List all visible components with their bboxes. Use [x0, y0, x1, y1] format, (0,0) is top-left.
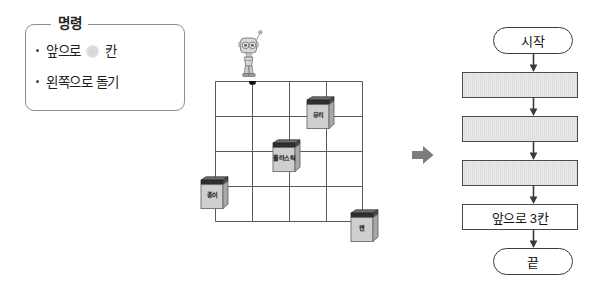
- flow-node-end[interactable]: 끝: [493, 248, 573, 275]
- flow-node-end-label: 끝: [527, 252, 539, 271]
- flow-arrow-4: [529, 186, 538, 204]
- flow-node-step3[interactable]: [462, 160, 578, 186]
- bullet-icon: [36, 49, 39, 52]
- bin-can-label: 캔: [349, 224, 375, 231]
- robot: [238, 29, 264, 81]
- flow-node-step1[interactable]: [462, 72, 578, 98]
- arrow-right-icon: [411, 144, 435, 166]
- bullet-icon: [36, 80, 39, 83]
- bin-plastic: 플라스틱: [271, 139, 301, 173]
- bin-paper: 종이: [199, 176, 229, 210]
- screenshot-root: 명령 앞으로 칸 왼쪽으로 돌기: [0, 0, 609, 303]
- bin-paper-label: 종이: [199, 191, 225, 198]
- command-item-forward[interactable]: 앞으로 칸: [46, 36, 184, 67]
- flow-arrow-1: [529, 54, 538, 72]
- flow-node-forward-3[interactable]: 앞으로 3칸: [462, 204, 578, 230]
- bin-glass: 유리: [305, 96, 335, 130]
- robot-start-dot: [249, 81, 256, 85]
- command-forward-suffix: 칸: [105, 44, 117, 59]
- flow-arrow-2: [529, 98, 538, 116]
- command-turn-left-label: 왼쪽으로 돌기: [46, 75, 119, 90]
- flow-node-start-label: 시작: [521, 31, 544, 50]
- flow-node-forward-3-label: 앞으로 3칸: [492, 208, 548, 227]
- command-item-turn-left[interactable]: 왼쪽으로 돌기: [46, 67, 184, 98]
- bin-glass-label: 유리: [305, 111, 331, 118]
- command-list: 앞으로 칸 왼쪽으로 돌기: [26, 36, 184, 98]
- command-forward-prefix: 앞으로: [46, 44, 81, 59]
- flow-arrow-3: [529, 142, 538, 160]
- flow-arrow-5: [529, 230, 538, 248]
- flow-node-step2[interactable]: [462, 116, 578, 142]
- command-panel: 명령 앞으로 칸 왼쪽으로 돌기: [25, 24, 185, 111]
- flowchart: 시작: [455, 20, 595, 300]
- flow-node-start[interactable]: 시작: [493, 27, 573, 54]
- command-panel-legend: 명령: [51, 14, 88, 34]
- bin-can: 캔: [349, 209, 379, 243]
- redacted-value-blob: [86, 45, 99, 58]
- bin-plastic-label: 플라스틱: [271, 154, 297, 161]
